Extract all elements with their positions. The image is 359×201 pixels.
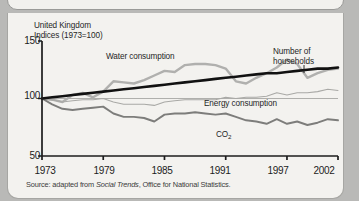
x-tick-2002: 2002: [304, 165, 344, 176]
upper-panel: [7, 0, 344, 10]
series-label-co2: CO2: [216, 130, 231, 140]
source-prefix: Source: adapted from: [26, 180, 96, 189]
x-tick-1985: 1985: [142, 165, 182, 176]
series-label-households: Number of households: [273, 47, 314, 66]
co2-text: CO: [216, 130, 228, 139]
y-tick-50: 50: [14, 150, 40, 161]
series-label-water: Water consumption: [106, 52, 175, 62]
source-publication: Social Trends: [96, 180, 139, 189]
series-label-households-line1: Number of: [273, 47, 314, 57]
y-tick-150: 150: [14, 35, 40, 46]
x-tick-1997: 1997: [258, 165, 298, 176]
x-tick-1991: 1991: [200, 165, 240, 176]
y-tick-100: 100: [14, 90, 40, 101]
series-label-households-line2: households: [273, 57, 314, 67]
line-chart: 150 100 50 1973 1979 1985 1991 1997 2002…: [8, 13, 344, 199]
source-note: Source: adapted from Social Trends, Offi…: [26, 180, 231, 189]
source-suffix: , Office for National Statistics.: [139, 180, 231, 189]
page-background: United Kingdom Indices (1973=100) 150 10…: [0, 0, 359, 201]
co2-subscript: 2: [228, 133, 231, 140]
figure-card: United Kingdom Indices (1973=100) 150 10…: [7, 13, 344, 199]
series-label-energy: Energy consumption: [204, 99, 277, 109]
x-tick-1979: 1979: [84, 165, 124, 176]
x-tick-1973: 1973: [25, 165, 65, 176]
